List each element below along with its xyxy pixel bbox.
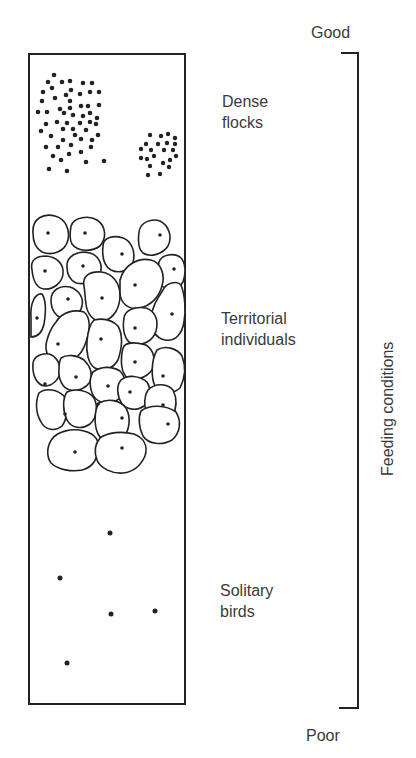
zone-label-line: flocks	[222, 112, 268, 133]
zone-label-line: birds	[220, 601, 273, 622]
dense-flock-large	[36, 73, 107, 174]
zone-label-solitary-birds: Solitary birds	[220, 580, 273, 622]
diagram-canvas	[0, 0, 416, 758]
axis-top-label: Good	[311, 22, 350, 43]
dense-flock-small	[139, 132, 178, 177]
axis-bottom-label: Poor	[306, 725, 340, 746]
zone-label-line: Dense	[222, 91, 268, 112]
zone-label-line: individuals	[221, 329, 296, 350]
axis-label: Feeding conditions	[379, 342, 397, 476]
zone-label-dense-flocks: Dense flocks	[222, 91, 268, 133]
territories	[31, 215, 185, 473]
zone-label-line: Territorial	[221, 308, 296, 329]
solitary-birds	[58, 531, 158, 666]
feeding-conditions-bracket	[339, 53, 358, 708]
zone-label-line: Solitary	[220, 580, 273, 601]
zone-label-territorial-individuals: Territorial individuals	[221, 308, 296, 350]
